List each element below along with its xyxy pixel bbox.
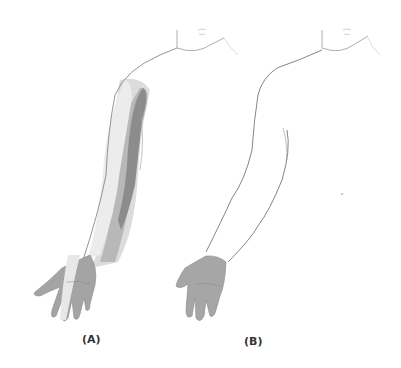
panel-a-label: (A) (82, 333, 101, 346)
anatomy-figure (0, 0, 401, 368)
panel-b-label: (B) (244, 335, 262, 348)
panel-b-figure (176, 29, 380, 321)
